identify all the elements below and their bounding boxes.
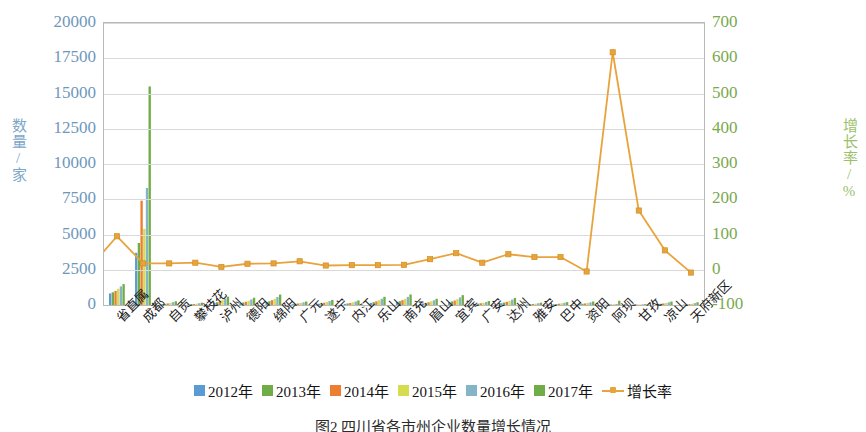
growth-rate-marker — [688, 270, 693, 275]
legend-label: 2012年 — [208, 380, 253, 401]
y-tick-left-12500: 12500 — [54, 118, 97, 138]
growth-rate-line-layer — [104, 23, 704, 305]
growth-rate-marker — [506, 252, 511, 257]
growth-rate-marker — [454, 251, 459, 256]
legend-item-增长率[interactable]: 增长率 — [602, 380, 672, 401]
growth-rate-marker — [271, 261, 276, 266]
legend-swatch-icon — [398, 385, 409, 396]
figure-caption: 图2 四川省各市州企业数量增长情况 — [0, 415, 866, 432]
growth-rate-marker — [245, 261, 250, 266]
y-tick-right-200: 200 — [712, 188, 738, 208]
growth-rate-marker — [532, 254, 537, 259]
y-tick-left-20000: 20000 — [54, 12, 97, 32]
legend-swatch-icon — [262, 385, 273, 396]
y-tick-left-15000: 15000 — [54, 83, 97, 103]
legend-swatch-icon — [534, 385, 545, 396]
growth-rate-marker — [114, 234, 119, 239]
growth-rate-marker — [219, 264, 224, 269]
legend-swatch-icon — [330, 385, 341, 396]
growth-rate-marker — [610, 50, 615, 55]
legend-label: 2016年 — [480, 380, 525, 401]
legend-label: 2013年 — [276, 380, 321, 401]
plot-area — [103, 22, 705, 306]
legend-item-2017年[interactable]: 2017年 — [534, 380, 593, 401]
growth-rate-marker — [558, 254, 563, 259]
growth-rate-marker — [401, 262, 406, 267]
legend-item-2012年[interactable]: 2012年 — [194, 380, 253, 401]
y-tick-left-10000: 10000 — [54, 153, 97, 173]
growth-rate-marker — [636, 208, 641, 213]
legend-swatch-icon — [466, 385, 477, 396]
legend-label: 2014年 — [344, 380, 389, 401]
growth-rate-marker — [662, 248, 667, 253]
legend-label: 2017年 — [548, 380, 593, 401]
growth-rate-marker — [323, 263, 328, 268]
growth-rate-marker — [375, 263, 380, 268]
growth-rate-marker — [349, 263, 354, 268]
growth-rate-marker — [167, 261, 172, 266]
legend-label: 增长率 — [627, 380, 672, 401]
y-tick-left-17500: 17500 — [54, 47, 97, 67]
y-axis-title-left: 数量/家 — [8, 118, 29, 183]
legend-swatch-icon — [194, 385, 205, 396]
growth-rate-marker — [297, 259, 302, 264]
growth-rate-marker — [141, 261, 146, 266]
y-tick-right-600: 600 — [712, 47, 738, 67]
y-tick-left-5000: 5000 — [62, 224, 96, 244]
chart-legend: 2012年2013年2014年2015年2016年2017年增长率 — [0, 380, 866, 401]
growth-rate-marker — [193, 260, 198, 265]
y-tick-left-0: 0 — [88, 294, 97, 314]
y-tick-right-500: 500 — [712, 83, 738, 103]
legend-line-marker-icon — [602, 385, 624, 396]
y-tick-left-2500: 2500 — [62, 259, 96, 279]
legend-item-2015年[interactable]: 2015年 — [398, 380, 457, 401]
y-tick-right-100: 100 — [712, 224, 738, 244]
legend-item-2013年[interactable]: 2013年 — [262, 380, 321, 401]
y-tick-right-0: 0 — [712, 259, 721, 279]
growth-rate-marker — [480, 260, 485, 265]
y-tick-right-400: 400 — [712, 118, 738, 138]
growth-rate-marker — [584, 269, 589, 274]
growth-rate-marker — [427, 257, 432, 262]
legend-item-2016年[interactable]: 2016年 — [466, 380, 525, 401]
growth-rate-polyline — [104, 52, 691, 272]
y-tick-right-300: 300 — [712, 153, 738, 173]
legend-item-2014年[interactable]: 2014年 — [330, 380, 389, 401]
legend-label: 2015年 — [412, 380, 457, 401]
chart-figure: 数量/家 增长率/% 02500500075001000012500150001… — [0, 0, 866, 432]
y-tick-left-7500: 7500 — [62, 188, 96, 208]
y-tick-right-700: 700 — [712, 12, 738, 32]
y-axis-title-right: 增长率/% — [839, 118, 860, 200]
